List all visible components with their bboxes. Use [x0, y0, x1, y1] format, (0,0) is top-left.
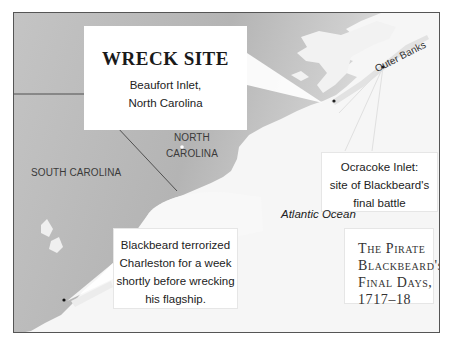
map-title-box: The Pirate Blackbeard's Final Days, 1717… — [344, 228, 434, 304]
map-frame: WRECK SITE Beaufort Inlet, North Carolin… — [13, 12, 440, 333]
title-line4: 1717–18 — [358, 291, 433, 308]
charleston-marker — [62, 298, 65, 301]
wreck-site-title: WRECK SITE — [84, 48, 247, 70]
charleston-line2: Charleston for a week — [114, 254, 237, 272]
charleston-callout: Blackbeard terrorized Charleston for a w… — [113, 228, 238, 309]
wreck-site-line1: Beaufort Inlet, — [84, 76, 247, 94]
charleston-line3: shortly before wrecking — [114, 272, 237, 290]
title-line2: Blackbeard's — [358, 257, 433, 274]
atlantic-ocean-label: Atlantic Ocean — [281, 208, 356, 220]
charleston-line1: Blackbeard terrorized — [114, 236, 237, 254]
south-carolina-label: SOUTH CAROLINA — [31, 165, 121, 181]
ocracoke-callout: Ocracoke Inlet: site of Blackbeard's fin… — [321, 152, 438, 212]
ocracoke-line2: site of Blackbeard's — [322, 176, 437, 194]
wreck-site-line2: North Carolina — [84, 94, 247, 112]
ocracoke-line1: Ocracoke Inlet: — [322, 158, 437, 176]
charleston-line4: his flagship. — [114, 290, 237, 308]
north-carolina-label: NORTH CAROLINA — [166, 130, 218, 162]
wreck-site-callout: WRECK SITE Beaufort Inlet, North Carolin… — [84, 26, 247, 130]
wreck-site-marker — [332, 99, 335, 102]
title-line1: The Pirate — [358, 240, 433, 257]
title-line3: Final Days, — [358, 274, 433, 291]
